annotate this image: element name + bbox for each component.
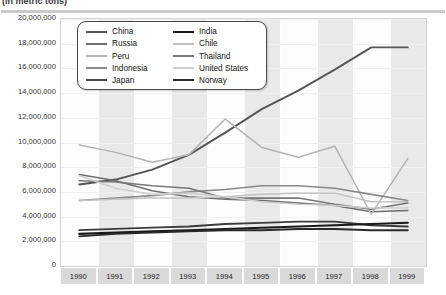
y-axis-tick-label: 12,000,000	[0, 113, 56, 121]
legend-item-label: Indonesia	[112, 64, 148, 73]
legend-item-label: India	[199, 27, 217, 36]
legend-item[interactable]: Norway	[173, 75, 260, 87]
y-axis-labels: 20,000,00018,000,00016,000,00014,000,000…	[0, 0, 56, 295]
horizontal-gridline	[61, 266, 426, 267]
x-axis-tick-label: 1997	[317, 268, 352, 284]
x-axis-tick-label: 1991	[98, 268, 133, 284]
legend-item[interactable]: Japan	[86, 75, 173, 87]
legend-swatch-icon	[173, 31, 194, 33]
y-axis-tick-label: 10,000,000	[0, 138, 56, 146]
x-axis-tick-label: 1990	[61, 268, 96, 284]
legend-item-label: Japan	[112, 76, 134, 85]
legend-swatch-icon	[86, 67, 107, 69]
legend-item-label: Norway	[199, 76, 227, 85]
legend-item-label: Peru	[112, 52, 129, 61]
y-axis-tick-label: 0	[0, 261, 56, 269]
y-axis-tick-label: 6,000,000	[0, 187, 56, 195]
legend-item[interactable]: China	[86, 26, 173, 38]
legend-swatch-icon	[173, 43, 194, 45]
legend-item[interactable]: Thailand	[173, 50, 260, 62]
legend-item-label: Thailand	[199, 52, 230, 61]
y-axis-tick-label: 4,000,000	[0, 212, 56, 220]
y-axis-tick-label: 2,000,000	[0, 236, 56, 244]
legend-item[interactable]: India	[173, 26, 260, 38]
legend-swatch-icon	[86, 31, 107, 33]
x-axis-tick-label: 1998	[353, 268, 388, 284]
legend-swatch-icon	[86, 43, 107, 45]
y-axis-tick-label: 14,000,000	[0, 88, 56, 96]
legend-item-label: Russia	[112, 39, 137, 48]
y-axis-tick-label: 8,000,000	[0, 162, 56, 170]
y-axis-tick-label: 20,000,000	[0, 14, 56, 22]
legend-swatch-icon	[86, 55, 107, 57]
page-title: (in metric tons)	[0, 0, 446, 7]
legend-swatch-icon	[173, 79, 194, 81]
y-axis-tick-label: 16,000,000	[0, 63, 56, 71]
x-axis-tick-label: 1999	[390, 268, 425, 284]
series-line	[79, 229, 408, 236]
chart-legend: ChinaRussiaPeruIndonesiaJapan IndiaChile…	[77, 21, 267, 90]
legend-item-label: United States	[199, 64, 248, 73]
legend-swatch-icon	[173, 55, 194, 57]
legend-item-label: Chile	[199, 39, 218, 48]
legend-item[interactable]: Indonesia	[86, 62, 173, 74]
chart-page: (in metric tons) 20,000,00018,000,00016,…	[0, 0, 446, 295]
x-axis-tick-label: 1992	[134, 268, 169, 284]
legend-column-right: IndiaChileThailandUnited StatesNorway	[173, 26, 260, 86]
x-axis-tick-label: 1995	[244, 268, 279, 284]
legend-item-label: China	[112, 27, 133, 36]
y-axis-tick-label: 18,000,000	[0, 39, 56, 47]
header-divider	[1, 10, 445, 13]
legend-column-left: ChinaRussiaPeruIndonesiaJapan	[86, 26, 173, 86]
legend-item[interactable]: Peru	[86, 50, 173, 62]
legend-swatch-icon	[173, 67, 194, 69]
series-line	[79, 175, 408, 212]
x-axis-tick-label: 1996	[280, 268, 315, 284]
chart-title-clipped: (in metric tons)	[0, 0, 446, 7]
x-axis-labels: 1990199119921993199419951996199719981999	[60, 268, 425, 284]
legend-item[interactable]: Russia	[86, 38, 173, 50]
legend-swatch-icon	[86, 79, 107, 81]
legend-item[interactable]: Chile	[173, 38, 260, 50]
x-axis-tick-label: 1993	[171, 268, 206, 284]
x-axis-tick-label: 1994	[207, 268, 242, 284]
legend-item[interactable]: United States	[173, 62, 260, 74]
